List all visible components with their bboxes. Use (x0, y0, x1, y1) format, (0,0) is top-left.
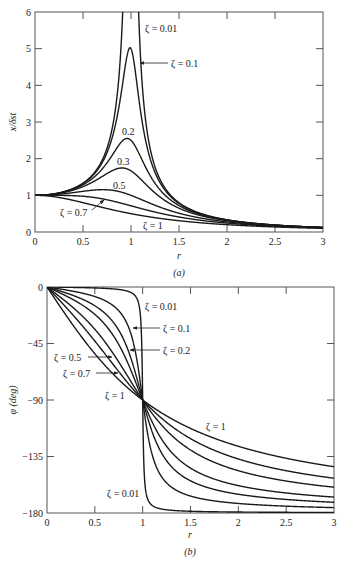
label-zeta-1-a: ζ = 1 (143, 220, 163, 232)
figure: 00.511.522.530123456 x/δst r (a) ζ = 0.0… (0, 0, 348, 561)
phase-curve-zeta-0-1 (47, 287, 334, 508)
x-tick-label: 2.5 (280, 517, 293, 528)
y-tick-label: 1 (26, 190, 31, 201)
panel-a-caption: (a) (173, 267, 185, 279)
y-tick-label: 0 (26, 227, 31, 238)
curve-zeta-0-1 (35, 48, 323, 228)
y-tick-label: 4 (26, 80, 31, 91)
label-zeta-0-2-a: 0.2 (122, 126, 135, 137)
panel-a-frame (35, 12, 323, 232)
x-tick-label: 2 (236, 517, 241, 528)
x-tick-label: 2 (225, 236, 230, 247)
panel-b-xlabel: r (188, 529, 192, 540)
label-zeta-0-3-a: 0.3 (117, 156, 130, 167)
y-tick-label: 3 (26, 117, 31, 128)
phase-curve-zeta-0-5 (47, 287, 334, 487)
panel-b-frame (47, 287, 334, 513)
panel-b-caption: (b) (184, 546, 196, 558)
panel-a-curves (35, 0, 323, 228)
label-zeta-0-7-a: ζ = 0.7 (60, 207, 87, 219)
y-tick-label: −45 (27, 338, 43, 349)
y-tick-label: 5 (26, 43, 31, 54)
x-tick-label: 0.5 (89, 517, 102, 528)
panel-b-ticks: 00.511.522.530−45−90−135−180 (22, 282, 336, 529)
label-zeta-0-1-a: ζ = 0.1 (171, 58, 198, 70)
x-tick-label: 3 (332, 517, 337, 528)
label-zeta-0-01-b-top: ζ = 0.01 (145, 301, 177, 313)
label-zeta-0-01-b-bottom: ζ = 0.01 (107, 488, 139, 500)
x-tick-label: 1.5 (184, 517, 197, 528)
x-tick-label: 0 (45, 517, 50, 528)
panel-a-ylabel: x/δst (7, 113, 18, 133)
panel-a-magnification-chart: 00.511.522.530123456 x/δst r (a) ζ = 0.0… (7, 0, 326, 279)
y-tick-label: −135 (22, 451, 43, 462)
phase-curve-zeta-0-01 (47, 287, 334, 512)
x-tick-label: 1 (140, 517, 145, 528)
label-zeta-0-1-b: ζ = 0.1 (163, 323, 190, 335)
panel-b-phase-chart: 00.511.522.530−45−90−135−180 φ (deg) r (… (7, 282, 337, 559)
x-tick-label: 1.5 (173, 236, 186, 247)
label-zeta-0-01-a: ζ = 0.01 (145, 23, 177, 35)
label-zeta-0-5-a: 0.5 (113, 180, 126, 191)
panel-a-xlabel: r (177, 250, 181, 261)
y-tick-label: −180 (22, 508, 43, 519)
x-tick-label: 2.5 (269, 236, 282, 247)
panel-b-curves (47, 287, 334, 512)
y-tick-label: 6 (26, 7, 31, 18)
panel-b-ylabel: φ (deg) (7, 385, 19, 415)
y-tick-label: 0 (38, 282, 43, 293)
y-tick-label: 2 (26, 153, 31, 164)
curve-zeta-0-01 (35, 0, 323, 227)
phase-curve-zeta-0-2 (47, 287, 334, 502)
curve-zeta-0-3 (35, 168, 323, 228)
x-tick-label: 1 (129, 236, 134, 247)
x-tick-label: 3 (321, 236, 326, 247)
label-zeta-0-2-b: ζ = 0.2 (163, 345, 190, 357)
x-tick-label: 0 (33, 236, 38, 247)
phase-curve-zeta-0-3 (47, 287, 334, 497)
label-zeta-0-5-b: ζ = 0.5 (54, 352, 81, 364)
label-zeta-1-b-right: ζ = 1 (206, 421, 226, 433)
label-zeta-0-7-b: ζ = 0.7 (63, 368, 90, 380)
y-tick-label: −90 (27, 395, 43, 406)
x-tick-label: 0.5 (77, 236, 90, 247)
label-zeta-1-b-left: ζ = 1 (105, 390, 125, 402)
